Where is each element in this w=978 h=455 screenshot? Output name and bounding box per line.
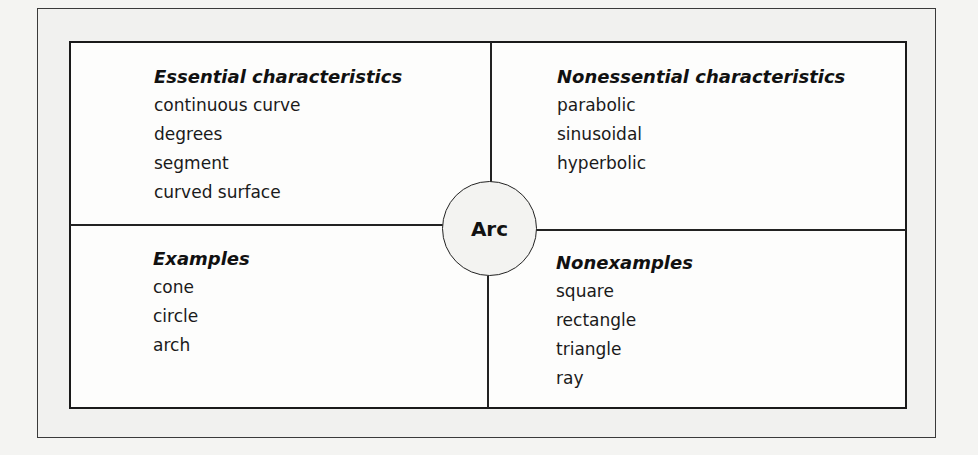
quadrant-heading: Examples — [153, 244, 250, 273]
quadrant-nonessential-characteristics: Nonessential characteristics parabolic s… — [557, 62, 845, 178]
quadrant-nonexamples: Nonexamples square rectangle triangle ra… — [556, 248, 693, 393]
divider-vertical-bottom — [487, 276, 489, 408]
quadrant-heading: Essential characteristics — [154, 62, 402, 91]
list-item: hyperbolic — [557, 149, 845, 178]
divider-horizontal-right — [535, 229, 906, 231]
center-concept-circle: Arc — [442, 181, 537, 276]
list-item: curved surface — [154, 178, 402, 207]
list-item: segment — [154, 149, 402, 178]
list-item: cone — [153, 273, 250, 302]
list-item: sinusoidal — [557, 120, 845, 149]
quadrant-examples: Examples cone circle arch — [153, 244, 250, 360]
quadrant-heading: Nonexamples — [556, 248, 693, 277]
list-item: parabolic — [557, 91, 845, 120]
list-item: triangle — [556, 335, 693, 364]
list-item: square — [556, 277, 693, 306]
center-concept-label: Arc — [471, 217, 508, 241]
quadrant-essential-characteristics: Essential characteristics continuous cur… — [154, 62, 402, 207]
divider-vertical-top — [490, 42, 492, 184]
list-item: rectangle — [556, 306, 693, 335]
list-item: ray — [556, 364, 693, 393]
list-item: degrees — [154, 120, 402, 149]
divider-horizontal-left — [70, 224, 444, 226]
list-item: arch — [153, 331, 250, 360]
quadrant-heading: Nonessential characteristics — [557, 62, 845, 91]
list-item: circle — [153, 302, 250, 331]
list-item: continuous curve — [154, 91, 402, 120]
